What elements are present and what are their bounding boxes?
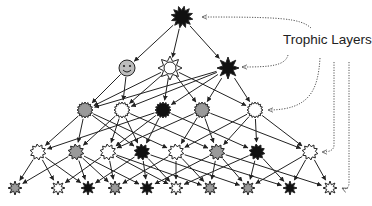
species-node-white-star-icon: [51, 181, 65, 195]
trophic-link-arrow: [314, 160, 325, 180]
species-node-white-burst-icon: [100, 144, 116, 160]
trophic-link-arrow: [155, 156, 209, 184]
species-node-gray-burst-icon: [68, 144, 84, 160]
species-node-gray-burst-icon: [209, 144, 225, 160]
trophic-link-arrow: [45, 157, 80, 182]
species-node-gray-star-icon: [203, 181, 217, 195]
species-node-black-burst-icon: [134, 144, 150, 160]
trophic-link-arrow: [95, 71, 217, 107]
trophic-link-arrow: [92, 74, 121, 103]
species-node-white-sun-icon: [158, 56, 182, 80]
trophic-link-arrow: [205, 118, 214, 142]
trophic-link-arrow: [179, 72, 246, 105]
species-node-black-star-icon: [140, 181, 154, 195]
trophic-link-arrow: [123, 77, 126, 100]
trophic-link-arrow: [134, 25, 173, 61]
species-node-white-gear-icon: [247, 102, 263, 118]
layer-pointer-arrow: [268, 58, 320, 110]
trophic-link-arrow: [173, 29, 180, 58]
species-node-gray-star-icon: [108, 181, 122, 195]
trophic-link-arrow: [45, 116, 78, 145]
trophic-link-arrow: [79, 161, 85, 180]
species-node-white-star-icon: [323, 181, 337, 195]
species-node-black-star-icon: [217, 57, 239, 79]
layer-pointer-arrow: [202, 17, 311, 28]
species-node-black-star-icon: [81, 181, 95, 195]
layer-pointer-arrow: [342, 62, 349, 189]
trophic-link-arrow: [94, 72, 161, 105]
species-node-white-gear-icon: [114, 102, 130, 118]
trophic-link-arrow: [185, 114, 247, 147]
trophic-link-arrow: [47, 113, 154, 149]
trophic-link-arrow: [207, 78, 221, 101]
layer-pointer-arrow: [322, 62, 334, 152]
species-node-gray-star-icon: [241, 181, 255, 195]
trophic-link-arrow: [294, 160, 305, 180]
species-node-gray-smiley-icon: [119, 60, 135, 76]
species-node-white-burst-icon: [30, 144, 46, 160]
trophic-link-arrow: [42, 160, 53, 180]
species-node-black-star-icon: [283, 181, 297, 195]
trophic-links: [20, 25, 326, 185]
species-node-black-burst-icon: [249, 144, 265, 160]
trophic-link-arrow: [23, 157, 68, 184]
species-node-white-burst-icon: [302, 144, 318, 160]
species-node-gray-gear-icon: [194, 102, 210, 118]
trophic-link-arrow: [255, 119, 256, 142]
species-node-black-burst-icon: [171, 6, 193, 28]
trophic-link-arrow: [165, 78, 169, 100]
trophic-link-arrow: [224, 117, 249, 145]
trophic-link-arrow: [20, 160, 33, 181]
trophic-link-arrow: [182, 159, 204, 182]
trophic-link-arrow: [223, 159, 242, 181]
trophic-link-arrow: [110, 161, 114, 179]
trophic-link-arrow: [92, 115, 134, 146]
trophic-link-arrow: [234, 78, 249, 101]
layer-pointer-arrow: [242, 55, 288, 67]
trophic-link-arrow: [190, 26, 219, 58]
trophic-link-arrow: [116, 115, 156, 145]
species-node-gray-star-icon: [8, 181, 22, 195]
trophic-link-arrow: [131, 72, 217, 106]
species-node-white-star-icon: [169, 181, 183, 195]
trophic-layers-label: Trophic Layers: [283, 32, 372, 47]
species-node-gray-gear-icon: [77, 102, 93, 118]
species-node-white-burst-icon: [168, 144, 184, 160]
species-node-black-gear-icon: [155, 102, 171, 118]
